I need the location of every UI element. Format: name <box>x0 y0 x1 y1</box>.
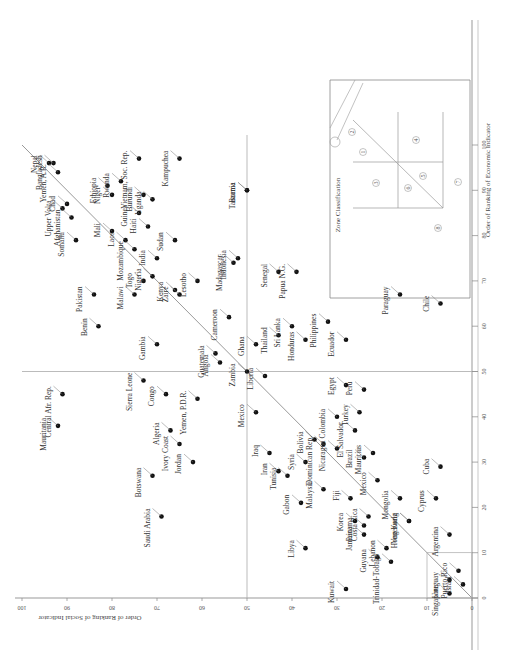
data-point: Haiti <box>129 219 150 234</box>
svg-text:40: 40 <box>481 414 487 420</box>
svg-text:Honduras: Honduras <box>287 332 296 361</box>
svg-text:Philippines: Philippines <box>309 314 318 348</box>
svg-text:Central Afr. Rep.: Central Afr. Rep. <box>44 386 53 437</box>
svg-text:Jamaica: Jamaica <box>345 526 354 551</box>
svg-text:5: 5 <box>420 175 426 178</box>
svg-text:Nigeria: Nigeria <box>134 268 143 291</box>
svg-text:Rwanda: Rwanda <box>102 173 111 198</box>
svg-text:Sri Lanka: Sri Lanka <box>273 318 282 348</box>
data-point: Pakistan <box>75 286 96 312</box>
svg-text:Zaire: Zaire <box>161 286 170 302</box>
data-point: Botswana <box>134 467 155 497</box>
svg-text:Upper Volta: Upper Volta <box>44 200 53 237</box>
data-point: Lesotho <box>179 273 200 297</box>
svg-text:Fiji: Fiji <box>332 490 341 500</box>
svg-text:Mexico: Mexico <box>237 404 246 427</box>
svg-text:60: 60 <box>481 323 487 329</box>
svg-text:Paraguay: Paraguay <box>381 286 390 314</box>
data-point: Jordan <box>174 454 195 474</box>
svg-text:4: 4 <box>413 139 419 142</box>
data-point: Cuba <box>422 458 443 475</box>
svg-text:10: 10 <box>424 605 430 611</box>
svg-text:Guyana: Guyana <box>359 549 368 573</box>
svg-text:90: 90 <box>64 605 70 611</box>
data-point: Papua N.G. <box>278 264 299 299</box>
svg-text:Syria: Syria <box>287 453 296 470</box>
svg-text:80: 80 <box>109 605 115 611</box>
data-point: Chile <box>422 295 443 312</box>
svg-text:Somalia: Somalia <box>57 231 66 256</box>
svg-text:Congo: Congo <box>147 386 156 406</box>
svg-text:Egypt: Egypt <box>327 376 336 395</box>
data-point: Tanzania <box>228 182 249 210</box>
svg-text:8: 8 <box>435 227 441 230</box>
svg-text:Argentina: Argentina <box>431 526 440 557</box>
svg-text:Jordan: Jordan <box>174 454 183 474</box>
svg-text:Saudi Arabia: Saudi Arabia <box>143 508 152 548</box>
data-point: Yemen, P.D.R. <box>179 391 200 435</box>
svg-text:20: 20 <box>481 504 487 510</box>
svg-text:Ivory Coast: Ivory Coast <box>161 435 170 471</box>
data-point: Gabon <box>282 495 303 515</box>
svg-text:70: 70 <box>154 605 160 611</box>
svg-text:50: 50 <box>481 369 487 375</box>
data-point: Somalia <box>57 231 78 256</box>
data-point: Liberia <box>246 367 267 389</box>
svg-text:Cuba: Cuba <box>422 458 431 475</box>
data-point: Ecuador <box>327 331 348 356</box>
svg-text:Iran: Iran <box>260 463 269 475</box>
svg-text:Uruguay: Uruguay <box>431 572 440 598</box>
data-point: Turkey <box>341 404 362 426</box>
data-point: Indonesia <box>219 250 240 280</box>
data-point: Iraq <box>251 445 272 457</box>
svg-text:Trinidad-Tobago: Trinidad-Tobago <box>372 554 381 605</box>
svg-text:Haiti: Haiti <box>129 219 138 234</box>
svg-text:Bolivia: Bolivia <box>296 431 305 454</box>
svg-text:Mongolia: Mongolia <box>381 490 390 520</box>
svg-text:Indonesia: Indonesia <box>219 250 228 280</box>
data-point: Trinidad-Tobago <box>372 554 393 605</box>
svg-text:Nicaragua: Nicaragua <box>318 440 327 471</box>
svg-text:20: 20 <box>379 605 385 611</box>
svg-text:Cyprus: Cyprus <box>417 490 426 512</box>
data-point: Gambia <box>138 336 159 360</box>
data-point: Venezuela <box>390 512 411 543</box>
svg-text:30: 30 <box>481 459 487 465</box>
svg-text:Gabon: Gabon <box>282 495 291 515</box>
svg-text:10: 10 <box>481 550 487 556</box>
zone-classification-inset: Zone Classification12345678 <box>330 80 470 298</box>
svg-text:Libya: Libya <box>287 540 296 558</box>
svg-text:3: 3 <box>373 182 379 185</box>
svg-text:Cameroon: Cameroon <box>210 309 219 340</box>
svg-text:50: 50 <box>244 605 250 611</box>
svg-text:Mali: Mali <box>93 223 102 237</box>
svg-text:Tanzania: Tanzania <box>228 182 237 210</box>
svg-text:Uganda: Uganda <box>134 191 143 215</box>
svg-text:Turkey: Turkey <box>341 404 350 426</box>
data-point: Mexico <box>237 404 258 427</box>
data-point: Mexico <box>359 472 380 495</box>
svg-text:2: 2 <box>349 131 355 134</box>
data-point: Argentina <box>431 526 452 557</box>
data-point: Kuwait <box>327 580 348 603</box>
svg-text:Tunisia: Tunisia <box>269 467 278 490</box>
data-point: Congo <box>147 386 168 406</box>
data-point: Peru <box>345 381 366 395</box>
svg-text:Chile: Chile <box>422 295 431 312</box>
data-point: Saudi Arabia <box>143 508 164 548</box>
data-point: Benin <box>80 318 101 336</box>
scatter-chart: 0102030405060708090100010203040506070809… <box>0 0 516 654</box>
reference-lines <box>22 135 478 598</box>
svg-text:0: 0 <box>471 605 474 611</box>
svg-text:Guinea: Guinea <box>120 204 129 226</box>
data-point: Ghana <box>237 336 258 356</box>
svg-text:Venezuela: Venezuela <box>390 512 399 543</box>
svg-text:60: 60 <box>199 605 205 611</box>
data-point: Honduras <box>287 332 308 361</box>
svg-text:Ecuador: Ecuador <box>327 331 336 356</box>
svg-text:70: 70 <box>481 278 487 284</box>
svg-text:Kampuchea: Kampuchea <box>161 150 170 186</box>
economic-axis-label: Order of Ranking of Economic Indicator <box>484 122 492 237</box>
svg-text:Sierra Leone: Sierra Leone <box>125 372 134 411</box>
svg-text:6: 6 <box>405 187 411 190</box>
